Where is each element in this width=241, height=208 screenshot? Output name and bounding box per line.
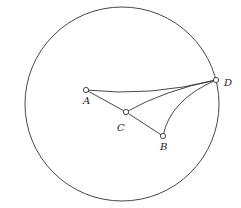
label-a: A — [82, 95, 90, 106]
boundary-circle — [25, 7, 219, 201]
point-a — [83, 87, 88, 92]
arc-c-d — [126, 80, 216, 112]
label-d: D — [223, 77, 232, 88]
point-d — [213, 77, 218, 82]
segment-a-c — [86, 90, 126, 112]
label-c: C — [117, 122, 125, 133]
geometry-diagram: A B C D — [0, 0, 241, 208]
label-b: B — [159, 141, 167, 152]
point-b — [160, 133, 165, 138]
segment-c-b — [126, 112, 163, 136]
point-c — [123, 109, 128, 114]
